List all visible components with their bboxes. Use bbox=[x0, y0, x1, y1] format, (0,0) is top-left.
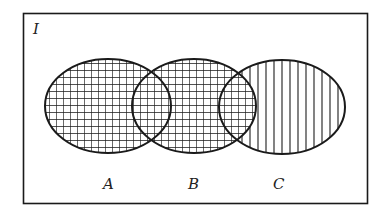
set-c-label: C bbox=[273, 175, 285, 193]
set-b-label: B bbox=[187, 175, 199, 193]
venn-diagram: I A B C bbox=[0, 0, 385, 224]
universe-label: I bbox=[32, 20, 40, 38]
set-a-label: A bbox=[101, 175, 114, 193]
